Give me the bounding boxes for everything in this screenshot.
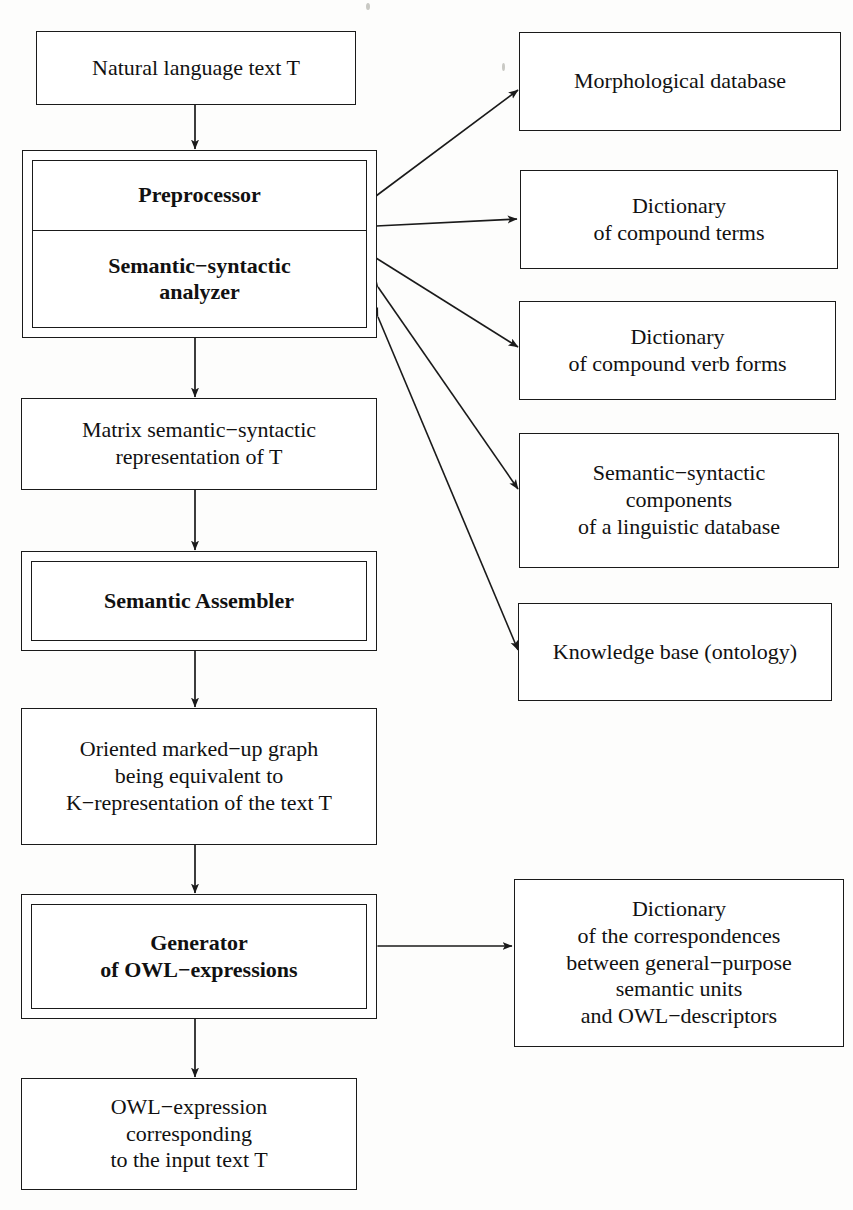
node-knowledge-base: Knowledge base (ontology) [518, 603, 832, 701]
node-dictionary-compound-verb-forms-label: Dictionary of compound verb forms [568, 324, 786, 378]
node-preprocessor: Preprocessor [33, 161, 366, 230]
node-morphological-database-label: Morphological database [574, 68, 786, 95]
node-dictionary-correspondences-label: Dictionary of the correspondences betwee… [566, 896, 792, 1030]
node-oriented-graph: Oriented marked−up graph being equivalen… [21, 708, 377, 845]
node-oriented-graph-label: Oriented marked−up graph being equivalen… [66, 736, 332, 816]
node-owl-expression-output: OWL−expression corresponding to the inpu… [21, 1078, 357, 1190]
node-semantic-assembler-module: Semantic Assembler [21, 551, 377, 651]
node-input-text-label: Natural language text T [92, 55, 300, 82]
edge-analyzer-dictionary-terms [376, 219, 517, 226]
edge-analyzer-morphological-database [376, 90, 518, 196]
node-input-text: Natural language text T [36, 31, 356, 105]
node-owl-expression-output-label: OWL−expression corresponding to the inpu… [110, 1094, 267, 1174]
node-matrix-representation-label: Matrix semantic−syntactic representation… [82, 417, 316, 471]
node-generator-owl-expressions: Generator of OWL−expressions [32, 905, 366, 1008]
node-morphological-database: Morphological database [519, 32, 841, 131]
node-dictionary-compound-terms-label: Dictionary of compound terms [593, 193, 764, 247]
node-analyzer-module: Preprocessor Semantic−syntactic analyzer [22, 150, 377, 338]
scan-speck [366, 3, 370, 10]
flowchart-canvas: Natural language text T Preprocessor Sem… [0, 0, 853, 1210]
node-semantic-assembler: Semantic Assembler [32, 562, 366, 640]
node-semantic-assembler-inner: Semantic Assembler [31, 561, 367, 641]
node-semantic-syntactic-components-label: Semantic−syntactic components of a lingu… [578, 460, 780, 540]
edge-analyzer-knowledge-base [378, 317, 518, 650]
node-generator-inner: Generator of OWL−expressions [31, 904, 367, 1009]
edge-analyzer-semantic-components [378, 287, 518, 489]
node-knowledge-base-label: Knowledge base (ontology) [553, 639, 797, 666]
node-dictionary-compound-terms: Dictionary of compound terms [520, 170, 838, 269]
scan-speck [502, 63, 505, 71]
node-semantic-syntactic-components: Semantic−syntactic components of a lingu… [519, 433, 839, 568]
node-semantic-syntactic-analyzer: Semantic−syntactic analyzer [33, 230, 366, 327]
node-analyzer-module-inner: Preprocessor Semantic−syntactic analyzer [32, 160, 367, 328]
edge-analyzer-dictionary-verb-forms [376, 258, 518, 347]
node-matrix-representation: Matrix semantic−syntactic representation… [21, 398, 377, 490]
node-generator-module: Generator of OWL−expressions [21, 894, 377, 1019]
node-dictionary-compound-verb-forms: Dictionary of compound verb forms [519, 301, 836, 400]
node-dictionary-correspondences: Dictionary of the correspondences betwee… [514, 879, 844, 1047]
